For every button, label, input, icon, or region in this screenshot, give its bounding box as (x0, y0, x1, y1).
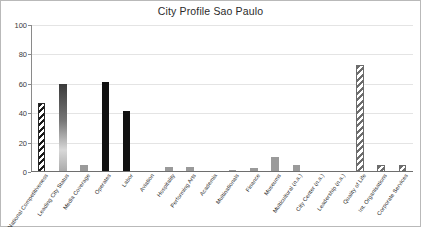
x-axis-label-finance: Finance (245, 173, 261, 193)
y-tick-label-20: 20 (19, 138, 27, 147)
bar-national-competitiveness (38, 103, 46, 172)
x-axis-label-aviation: Aviation (139, 173, 155, 193)
x-axis-label-hospitality: Hospitality (157, 173, 177, 198)
y-tick-label-100: 100 (14, 21, 27, 30)
bar-quality-of-life (356, 65, 364, 172)
y-tick-label-40: 40 (19, 109, 27, 118)
x-axis-label-labor: Labor (121, 173, 134, 188)
x-axis-label-operates: Operates (95, 173, 113, 196)
x-axis-label-multinationals: Multinationals (215, 173, 240, 205)
plot-area: 020406080100 (31, 25, 413, 172)
chart-screenshot: City Profile Sao Paulo 020406080100 Nati… (0, 0, 421, 227)
x-axis-labels-group: National CompetitivenessLeading City Sta… (31, 173, 413, 227)
x-axis-line (31, 171, 413, 173)
bars-group (31, 25, 413, 172)
x-axis-label-museums: Museums (264, 173, 283, 197)
bar-labor (123, 111, 131, 172)
y-tick-label-60: 60 (19, 79, 27, 88)
chart-title: City Profile Sao Paulo (0, 5, 421, 17)
bar-leading-city-status (59, 84, 67, 172)
x-axis-label-academia: Academia (200, 173, 219, 197)
bar-operates (102, 82, 110, 172)
y-tick-label-80: 80 (19, 50, 27, 59)
y-tick-label-0: 0 (23, 168, 27, 177)
